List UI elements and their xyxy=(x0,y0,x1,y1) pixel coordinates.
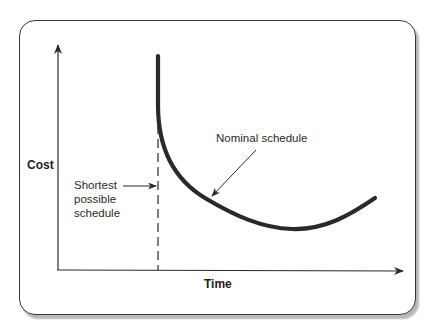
x-axis xyxy=(57,270,403,271)
shortest-schedule-label: Shortest possible schedule xyxy=(74,178,120,220)
nominal-schedule-label: Nominal schedule xyxy=(216,131,307,145)
x-axis-label: Time xyxy=(204,277,232,291)
shortest-line-1: Shortest xyxy=(74,178,120,192)
nominal-arrow-icon xyxy=(212,150,256,196)
shortest-line-2: possible xyxy=(74,192,120,206)
y-axis-label: Cost xyxy=(27,158,54,172)
shortest-line-3: schedule xyxy=(74,206,120,220)
